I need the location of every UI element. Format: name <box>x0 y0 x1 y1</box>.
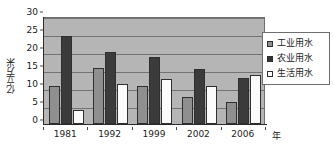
x-axis-tick-mark <box>221 127 222 130</box>
x-axis-tick-mark <box>176 127 177 130</box>
bar[interactable] <box>149 57 160 124</box>
x-axis-tick-label: 2006 <box>231 129 254 139</box>
bar[interactable] <box>73 110 84 124</box>
x-axis-tick-label: 1981 <box>54 129 77 139</box>
bar[interactable] <box>117 84 128 124</box>
bar-group <box>222 18 265 124</box>
legend-item-label: 工业用水 <box>277 39 313 48</box>
bar[interactable] <box>161 79 172 124</box>
x-axis-tick-label: 1992 <box>98 129 121 139</box>
legend-swatch-icon <box>267 71 273 77</box>
y-axis-tick-label: 30 <box>27 8 38 17</box>
bar-group <box>44 18 88 124</box>
x-axis-unit-label: 年 <box>272 129 281 142</box>
bar[interactable] <box>49 86 60 124</box>
x-axis-tick-labels: 19811992199920022006 <box>43 127 265 143</box>
legend-swatch-icon <box>267 41 273 47</box>
bar[interactable] <box>238 78 249 124</box>
y-axis-tick-mark <box>40 12 43 13</box>
y-axis-tick-label: 0 <box>32 116 38 125</box>
x-axis-tick-label: 1999 <box>143 129 166 139</box>
bar[interactable] <box>61 36 72 124</box>
bar[interactable] <box>250 75 261 124</box>
x-axis-tick-mark <box>43 127 44 130</box>
legend-item-label: 生活用水 <box>277 69 313 78</box>
x-axis-tick-label: 2002 <box>187 129 210 139</box>
bar-group <box>133 18 177 124</box>
bar[interactable] <box>182 97 193 124</box>
bar[interactable] <box>137 86 148 124</box>
y-axis-tick-label: 5 <box>32 98 38 107</box>
bar-group <box>88 18 132 124</box>
bar-group <box>177 18 221 124</box>
y-axis-tick-labels: 051015202530 <box>16 12 40 126</box>
y-axis-tick-label: 10 <box>27 80 38 89</box>
bar[interactable] <box>105 52 116 124</box>
legend-item[interactable]: 农业用水 <box>267 51 326 66</box>
legend-item-label: 农业用水 <box>277 54 313 63</box>
bar[interactable] <box>93 68 104 124</box>
y-axis-tick-label: 25 <box>27 26 38 35</box>
legend-item[interactable]: 生活用水 <box>267 66 326 81</box>
legend-item[interactable]: 工业用水 <box>267 36 326 51</box>
y-axis-tick-label: 20 <box>27 44 38 53</box>
bar-chart: 亿立方米 051015202530 19811992199920022006 年… <box>0 0 334 158</box>
x-axis-tick-mark <box>132 127 133 130</box>
bar[interactable] <box>206 86 217 124</box>
x-axis-tick-mark <box>265 127 266 130</box>
plot-area <box>43 17 265 125</box>
bar[interactable] <box>194 69 205 124</box>
x-axis-tick-mark <box>87 127 88 130</box>
bar[interactable] <box>226 102 237 124</box>
y-axis-tick-label: 15 <box>27 62 38 71</box>
legend-swatch-icon <box>267 56 273 62</box>
x-axis-line <box>43 124 267 125</box>
y-axis-line <box>43 17 44 125</box>
chart-legend: 工业用水农业用水生活用水 <box>262 32 330 85</box>
